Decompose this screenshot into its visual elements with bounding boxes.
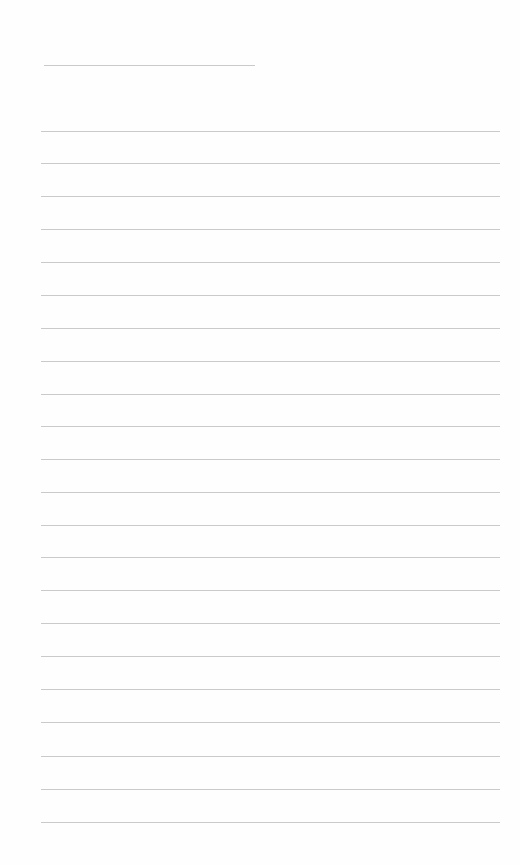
ruled-line bbox=[41, 295, 500, 296]
ruled-line bbox=[41, 525, 500, 526]
ruled-line bbox=[41, 426, 500, 427]
ruled-line bbox=[41, 822, 500, 823]
ruled-line bbox=[41, 492, 500, 493]
ruled-line bbox=[41, 163, 500, 164]
ruled-line bbox=[41, 131, 500, 132]
ruled-line bbox=[41, 689, 500, 690]
ruled-line bbox=[41, 623, 500, 624]
ruled-line bbox=[41, 722, 500, 723]
ruled-line bbox=[41, 328, 500, 329]
lined-paper-page bbox=[0, 0, 520, 865]
ruled-line bbox=[41, 557, 500, 558]
ruled-line bbox=[41, 262, 500, 263]
ruled-line bbox=[41, 394, 500, 395]
ruled-line bbox=[41, 361, 500, 362]
ruled-line bbox=[41, 656, 500, 657]
ruled-line bbox=[41, 196, 500, 197]
ruled-line bbox=[41, 590, 500, 591]
ruled-line bbox=[41, 789, 500, 790]
ruled-line bbox=[41, 229, 500, 230]
ruled-line bbox=[41, 756, 500, 757]
title-line bbox=[44, 65, 255, 66]
ruled-line bbox=[41, 459, 500, 460]
